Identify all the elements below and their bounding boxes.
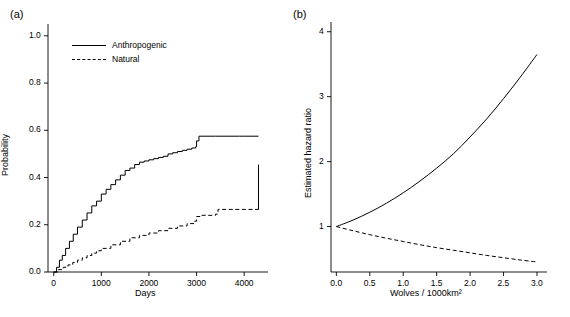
legend-label-anthropogenic: Anthropogenic bbox=[112, 41, 167, 50]
y-tick-label: 1.0 bbox=[29, 30, 41, 40]
legend-key-dashed-icon bbox=[72, 59, 106, 60]
x-tick-label: 1.5 bbox=[431, 278, 443, 288]
panel-a-x-axis-title: Days bbox=[135, 288, 156, 298]
x-tick-label: 3000 bbox=[187, 278, 206, 288]
legend-label-natural: Natural bbox=[112, 55, 139, 64]
x-tick-label: 0 bbox=[51, 278, 56, 288]
x-tick-label: 2000 bbox=[139, 278, 158, 288]
y-tick-label: 2 bbox=[319, 156, 324, 166]
panel-b-y-axis-title: Estimated hazard ratio bbox=[303, 108, 313, 198]
x-tick-label: 2.5 bbox=[498, 278, 510, 288]
x-tick-label: 1000 bbox=[92, 278, 111, 288]
panel-a-legend: Anthropogenic Natural bbox=[72, 38, 167, 66]
y-tick-label: 4 bbox=[319, 26, 324, 36]
y-tick-label: 0.6 bbox=[29, 124, 41, 134]
series-anthropogenic bbox=[54, 136, 259, 272]
x-tick-label: 4000 bbox=[235, 278, 254, 288]
series-natural bbox=[54, 165, 259, 272]
legend-key-solid-icon bbox=[72, 45, 106, 46]
x-tick-label: 0.5 bbox=[364, 278, 376, 288]
legend-item-anthropogenic: Anthropogenic bbox=[72, 38, 167, 52]
y-tick-label: 1 bbox=[319, 221, 324, 231]
panel-b: (b) Anthropogenic Natural Estimated haza… bbox=[285, 0, 570, 317]
series-natural bbox=[336, 227, 537, 262]
y-tick-label: 0.8 bbox=[29, 77, 41, 87]
x-tick-label: 0.0 bbox=[330, 278, 342, 288]
x-tick-label: 1.0 bbox=[397, 278, 409, 288]
y-tick-label: 0.4 bbox=[29, 172, 41, 182]
panel-b-plot bbox=[285, 0, 570, 317]
panel-a: (a) Anthropogenic Natural Probability Da… bbox=[0, 0, 285, 317]
panel-b-x-axis-title: Wolves / 1000km² bbox=[390, 288, 462, 298]
y-tick-label: 3 bbox=[319, 91, 324, 101]
panel-a-y-axis-title: Probability bbox=[0, 134, 10, 176]
legend-item-natural: Natural bbox=[72, 52, 167, 66]
figure: (a) Anthropogenic Natural Probability Da… bbox=[0, 0, 570, 317]
x-tick-label: 2.0 bbox=[464, 278, 476, 288]
y-tick-label: 0.0 bbox=[29, 266, 41, 276]
y-tick-label: 0.2 bbox=[29, 219, 41, 229]
x-tick-label: 3.0 bbox=[531, 278, 543, 288]
series-anthropogenic bbox=[336, 54, 537, 226]
